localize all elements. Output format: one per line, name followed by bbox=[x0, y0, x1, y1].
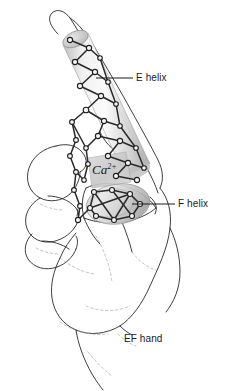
calcium-ion-symbol: Ca bbox=[92, 162, 107, 177]
ef-hand-figure: E helix F helix EF hand Ca2+ bbox=[0, 0, 225, 391]
label-e-helix: E helix bbox=[136, 72, 167, 83]
calcium-ion-charge: 2+ bbox=[107, 162, 116, 171]
ef-hand-illustration bbox=[0, 0, 225, 391]
label-f-helix: F helix bbox=[178, 198, 208, 209]
label-ef-hand: EF hand bbox=[124, 333, 163, 344]
label-calcium-ion: Ca2+ bbox=[92, 162, 117, 178]
